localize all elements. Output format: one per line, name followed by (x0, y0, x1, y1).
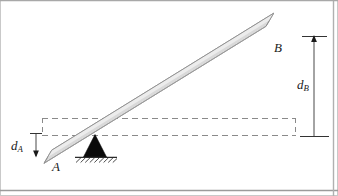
dimension-db-subscript: B (304, 83, 309, 93)
beam-figure: A B dA dB (0, 0, 338, 196)
dimension-db-label: dB (297, 78, 309, 93)
point-b-label: B (274, 41, 282, 54)
dimension-da-subscript: A (18, 144, 23, 154)
point-a-label: A (52, 160, 60, 173)
beam-diagram-canvas (0, 0, 338, 196)
dimension-da-label: dA (11, 139, 23, 154)
